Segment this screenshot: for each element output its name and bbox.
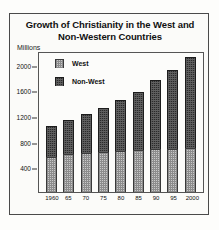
chart-image: Growth of Christianity in the West and N… [0, 0, 219, 230]
x-tick-65: 65 [63, 195, 74, 201]
y-tick-1200: 1200 [17, 114, 39, 121]
bar-segment-west [115, 151, 126, 192]
x-tick-90: 90 [151, 195, 162, 201]
x-tick-2000: 2000 [186, 195, 197, 201]
bar-75 [98, 53, 109, 192]
bar-segment-west [133, 150, 144, 192]
bar-segment-non-west [81, 114, 92, 153]
bar-85 [133, 53, 144, 192]
y-tick-mark [32, 66, 37, 67]
y-tick-2000: 2000 [17, 62, 39, 69]
bar-segment-non-west [46, 126, 57, 157]
x-tick-75: 75 [98, 195, 109, 201]
bar-segment-west [81, 153, 92, 192]
y-tick-mark [32, 143, 37, 144]
y-tick-mark [32, 169, 37, 170]
bar-segment-west [185, 148, 196, 192]
chart-title-line-2: Non-Western Countries [14, 31, 206, 43]
bar-80 [115, 53, 126, 192]
bar-70 [81, 53, 92, 192]
y-axis-label: Millions [17, 44, 40, 51]
x-axis-ticks: 1960657075808590952000 [38, 195, 204, 207]
bar-segment-non-west [150, 80, 161, 149]
y-tick-mark [32, 117, 37, 118]
bar-segment-west [167, 149, 178, 192]
bar-segment-non-west [63, 120, 74, 154]
y-tick-400: 400 [20, 165, 39, 172]
x-tick-80: 80 [115, 195, 126, 201]
bar-90 [150, 53, 161, 192]
bar-group [39, 53, 203, 192]
x-tick-85: 85 [133, 195, 144, 201]
bar-segment-west [98, 152, 109, 192]
bar-segment-west [150, 149, 161, 192]
bar-segment-non-west [167, 70, 178, 149]
bar-segment-non-west [115, 100, 126, 151]
x-tick-95: 95 [168, 195, 179, 201]
y-tick-1600: 1600 [17, 88, 39, 95]
bar-segment-non-west [185, 57, 196, 148]
x-tick-1960: 1960 [45, 195, 56, 201]
bar-segment-west [46, 157, 57, 192]
bar-65 [63, 53, 74, 192]
bar-segment-non-west [133, 92, 144, 150]
bar-1960 [46, 53, 57, 192]
bar-segment-west [63, 154, 74, 192]
chart-title: Growth of Christianity in the West and N… [14, 19, 206, 42]
y-tick-800: 800 [20, 139, 39, 146]
bar-segment-non-west [98, 108, 109, 152]
bar-2000 [185, 53, 196, 192]
plot-area: West Non-West 400800120016002000 [38, 52, 204, 193]
y-tick-mark [32, 92, 37, 93]
chart-title-line-1: Growth of Christianity in the West and [14, 19, 206, 31]
x-tick-70: 70 [80, 195, 91, 201]
bar-95 [167, 53, 178, 192]
